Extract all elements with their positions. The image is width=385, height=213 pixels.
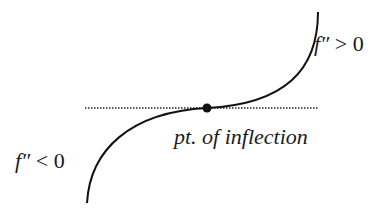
relation-text: < 0 <box>30 148 64 173</box>
inflection-point <box>203 104 212 113</box>
inflection-label: pt. of inflection <box>174 126 308 148</box>
second-derivative-symbol: f″ <box>15 148 30 173</box>
second-derivative-symbol: f″ <box>314 31 329 56</box>
concave-up-label: f″ > 0 <box>314 33 364 55</box>
concave-down-label: f″ < 0 <box>15 150 65 172</box>
relation-text: > 0 <box>329 31 363 56</box>
